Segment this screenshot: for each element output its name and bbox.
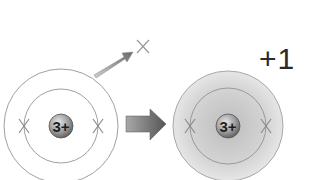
left-atom: 3+ [4,69,118,180]
right-arrow-icon [126,109,166,140]
right-ion: 3+ [173,71,283,180]
nucleus-label: 3+ [219,118,236,135]
atom-diagram: 3+ 3+ [0,0,315,180]
ion-charge-label: +1 [259,44,295,74]
ejection-arrow [94,52,133,78]
ejected-electron-icon [137,40,149,53]
nucleus-label: 3+ [52,118,69,135]
